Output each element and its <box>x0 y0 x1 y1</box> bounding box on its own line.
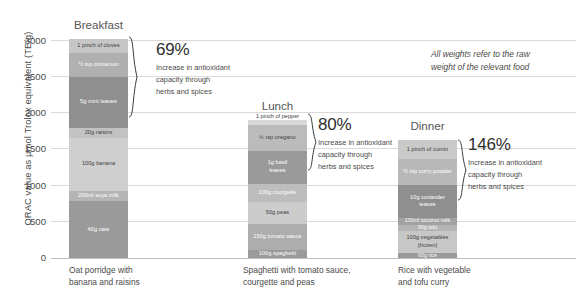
x-caption-line2: banana and raisins <box>69 276 169 288</box>
annotation-pct-lunch: 80% <box>318 115 392 135</box>
y-tick-3000: 3000 <box>12 35 46 46</box>
segment-label: 40g oats <box>88 226 110 234</box>
segment-spaghetti[interactable]: 100g spaghetti <box>248 250 307 258</box>
annotation-lunch: 80% Increase in antioxidant capacity thr… <box>318 115 392 173</box>
bar-dinner[interactable]: Dinner 60g rice 100g vegetables (frozen)… <box>398 140 457 258</box>
segment-label-line1: 10g coriander <box>410 194 445 202</box>
segment-oregano[interactable]: ¾ tsp oregano <box>248 125 307 151</box>
bar-title-dinner: Dinner <box>398 119 457 132</box>
segment-vegetables[interactable]: 100g vegetables (frozen) <box>398 231 457 253</box>
segment-courgette[interactable]: 100g courgette <box>248 184 307 202</box>
segment-oats[interactable]: 40g oats <box>69 201 128 258</box>
segment-tomato-sauce[interactable]: 150g tomato sauce <box>248 224 307 250</box>
x-caption-breakfast: Oat porridge with banana and raisins <box>69 264 169 288</box>
y-tick-2500: 2500 <box>12 71 46 82</box>
bar-title-lunch: Lunch <box>248 99 307 112</box>
annotation-pct-dinner: 146% <box>468 135 542 155</box>
segment-label: 100ml coconut milk <box>405 218 450 225</box>
segment-basil-leaves[interactable]: 1g basil leaves <box>248 151 307 184</box>
y-tick-0: 0 <box>12 252 46 263</box>
bar-title-breakfast: Breakfast <box>69 18 128 31</box>
annotation-desc-dinner: Increase in antioxidant capacity through… <box>468 157 542 193</box>
segment-label: 100g spaghetti <box>259 250 296 258</box>
y-tick-500: 500 <box>12 216 46 227</box>
segment-label-line1: 100g vegetables <box>407 234 449 242</box>
segment-peas[interactable]: 50g peas <box>248 202 307 224</box>
segment-label: ½ tsp curry powder <box>403 168 451 176</box>
x-caption-line2: courgette and peas <box>243 276 378 288</box>
segment-label: 150g tomato sauce <box>253 233 301 241</box>
orac-stacked-bar-chart: ORAC value as µmol Trolox equivalent (TE… <box>0 0 576 300</box>
annotation-line2: capacity through <box>468 169 542 181</box>
segment-cumin[interactable]: 1 pinch of cumin <box>398 140 457 159</box>
axis-baseline <box>51 258 576 259</box>
x-caption-line1: Spaghetti with tomato sauce, <box>243 264 378 276</box>
bar-breakfast[interactable]: Breakfast 40g oats 200ml soya milk 100g … <box>69 39 128 258</box>
annotation-desc-lunch: Increase in antioxidant capacity through… <box>318 137 392 173</box>
brace-breakfast <box>128 36 140 118</box>
annotation-line2: capacity through <box>318 149 392 161</box>
segment-label-line2: leaves <box>419 201 435 209</box>
segment-label: 100g banana <box>82 160 115 168</box>
annotation-breakfast: 69% Increase in antioxidant capacity thr… <box>156 40 230 98</box>
segment-coriander-leaves[interactable]: 10g coriander leaves <box>398 185 457 218</box>
segment-cloves[interactable]: 1 pinch of cloves <box>69 39 128 54</box>
segment-label-line2: leaves <box>269 167 285 175</box>
segment-mint-leaves[interactable]: 5g mint leaves <box>69 77 128 129</box>
annotation-desc-breakfast: Increase in antioxidant capacity through… <box>156 62 230 98</box>
x-caption-line2: and tofu curry <box>398 276 518 288</box>
segment-rice[interactable]: 60g rice <box>398 253 457 258</box>
bar-lunch[interactable]: Lunch 100g spaghetti 150g tomato sauce 5… <box>248 120 307 258</box>
segment-label: ¾ tsp oregano <box>259 134 295 142</box>
segment-cinnamon[interactable]: ½ tsp cinnamon <box>69 53 128 76</box>
segment-label: 5g mint leaves <box>80 98 117 106</box>
segment-banana[interactable]: 100g banana <box>69 138 128 191</box>
segment-curry-powder[interactable]: ½ tsp curry powder <box>398 159 457 185</box>
x-caption-lunch: Spaghetti with tomato sauce, courgette a… <box>243 264 378 288</box>
segment-pepper[interactable] <box>248 120 307 125</box>
annotation-line1: Increase in antioxidant <box>468 157 542 169</box>
segment-pepper-label: 1 pinch of pepper <box>248 113 307 119</box>
segment-label: 100g courgette <box>258 189 296 197</box>
segment-tofu[interactable]: 50g tofu <box>398 225 457 232</box>
segment-soya-milk[interactable]: 200ml soya milk <box>69 191 128 202</box>
footnote-line2: weight of the relevant food <box>431 61 530 74</box>
y-tick-2000: 2000 <box>12 107 46 118</box>
segment-label: 1 pinch of cloves <box>77 42 120 50</box>
segment-label: 1 pinch of cumin <box>407 146 449 154</box>
footnote-raw-weight: All weights refer to the raw weight of t… <box>431 48 530 74</box>
annotation-line1: Increase in antioxidant <box>156 62 230 74</box>
y-tick-1500: 1500 <box>12 143 46 154</box>
footnote-line1: All weights refer to the raw <box>431 48 530 61</box>
x-caption-dinner: Rice with vegetable and tofu curry <box>398 264 518 288</box>
annotation-pct-breakfast: 69% <box>156 40 230 60</box>
segment-label-line2: (frozen) <box>418 242 438 250</box>
segment-coconut-milk[interactable]: 100ml coconut milk <box>398 218 457 225</box>
annotation-line3: herbs and spices <box>318 161 392 173</box>
x-caption-line1: Rice with vegetable <box>398 264 518 276</box>
annotation-line2: capacity through <box>156 74 230 86</box>
segment-label-line1: 1g basil <box>268 159 288 167</box>
y-tick-1000: 1000 <box>12 180 46 191</box>
annotation-dinner: 146% Increase in antioxidant capacity th… <box>468 135 542 193</box>
segment-label: 50g tofu <box>418 225 437 232</box>
annotation-line1: Increase in antioxidant <box>318 137 392 149</box>
annotation-line3: herbs and spices <box>468 181 542 193</box>
segment-label: 50g peas <box>266 209 289 217</box>
segment-label: 200ml soya milk <box>78 192 119 200</box>
annotation-line3: herbs and spices <box>156 86 230 98</box>
segment-label: ½ tsp cinnamon <box>78 61 118 69</box>
segment-raisins[interactable]: 20g raisins <box>69 128 128 137</box>
segment-label: 60g rice <box>418 253 437 258</box>
x-caption-line1: Oat porridge with <box>69 264 169 276</box>
segment-label: 20g raisins <box>85 129 113 137</box>
gridline-500 <box>51 221 576 222</box>
